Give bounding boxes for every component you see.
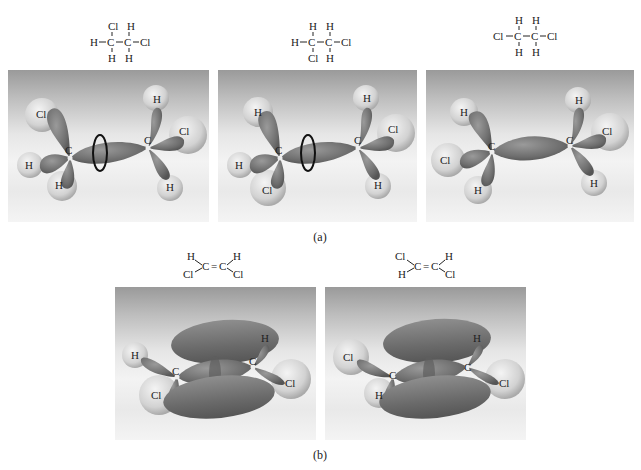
- atom-label: H: [326, 20, 334, 32]
- atom-label: H: [153, 93, 161, 105]
- carbon-label: C: [488, 140, 495, 152]
- bond-label: =: [211, 260, 217, 272]
- atom-label: H: [474, 184, 482, 196]
- atom-label: H: [363, 92, 371, 104]
- model-panel-a2: C C H H Cl H Cl H: [218, 70, 417, 222]
- atom-label: H: [90, 36, 98, 48]
- carbon-label: C: [566, 134, 573, 146]
- carbon-label: C: [354, 134, 361, 146]
- atom-label: C: [325, 36, 332, 48]
- atom-label: C: [308, 36, 315, 48]
- carbon-label: C: [275, 144, 282, 156]
- atom-label: C: [514, 30, 521, 42]
- atom-label: H: [309, 20, 317, 32]
- atom-label: H: [254, 106, 262, 118]
- atom-label: Cl: [547, 30, 557, 42]
- atom-label: Cl: [262, 184, 272, 196]
- formula-b2: Cl H C = C H Cl: [395, 250, 465, 282]
- model-panel-a3: C C H Cl H H Cl H: [426, 70, 634, 222]
- caption-a: (a): [300, 230, 340, 245]
- model-panel-b2: C C Cl H H Cl: [325, 287, 526, 440]
- atom-label: C: [107, 36, 114, 48]
- atom-label: H: [575, 94, 583, 106]
- model-panel-b1: C C H Cl H Cl: [115, 287, 316, 440]
- atom-label: H: [187, 250, 195, 262]
- atom-label: Cl: [151, 389, 161, 401]
- atom-label: C: [531, 30, 538, 42]
- atom-label: Cl: [36, 108, 46, 120]
- atom-label: Cl: [493, 30, 503, 42]
- carbon-label: C: [65, 144, 72, 156]
- atom-label: Cl: [233, 268, 243, 280]
- carbon-label: C: [144, 134, 151, 146]
- formula-b1: H Cl C = C H Cl: [183, 250, 253, 282]
- atom-label: H: [590, 177, 598, 189]
- atom-label: Cl: [285, 377, 295, 389]
- formula-a1: Cl H H C C Cl H H: [88, 20, 148, 64]
- atom-label: H: [291, 36, 299, 48]
- atom-label: Cl: [440, 154, 450, 166]
- atom-label: H: [127, 20, 135, 32]
- atom-label: Cl: [602, 125, 612, 137]
- atom-label: H: [261, 332, 269, 344]
- atom-label: H: [55, 179, 63, 191]
- atom-label: Cl: [445, 268, 455, 280]
- formula-a3: H H Cl C C Cl H H: [495, 14, 555, 58]
- atom-label: H: [515, 14, 523, 26]
- atom-label: H: [532, 46, 540, 58]
- atom-label: H: [233, 250, 241, 262]
- atom-label: Cl: [179, 125, 189, 137]
- atom-label: H: [398, 268, 406, 280]
- atom-label: H: [460, 106, 468, 118]
- formula-a2: H H H C C Cl Cl H: [289, 20, 349, 64]
- atom-label: Cl: [343, 351, 353, 363]
- carbon-label: C: [172, 365, 179, 377]
- atom-label: Cl: [308, 52, 318, 64]
- atom-label: Cl: [388, 123, 398, 135]
- atom-label: H: [125, 52, 133, 64]
- atom-label: H: [25, 159, 33, 171]
- atom-label: C: [202, 260, 209, 272]
- atom-label: H: [131, 349, 139, 361]
- atom-label: H: [473, 332, 481, 344]
- atom-label: H: [326, 52, 334, 64]
- atom-label: Cl: [183, 268, 193, 280]
- atom-label: C: [431, 260, 438, 272]
- atom-label: H: [166, 181, 174, 193]
- atom-label: H: [515, 46, 523, 58]
- atom-label: H: [235, 159, 243, 171]
- model-panel-a1: C C Cl H H H Cl H: [8, 70, 209, 222]
- atom-label: H: [374, 179, 382, 191]
- bond-label: =: [423, 260, 429, 272]
- atom-label: C: [414, 260, 421, 272]
- atom-label: H: [375, 389, 383, 401]
- atom-label: H: [532, 14, 540, 26]
- atom-label: C: [124, 36, 131, 48]
- carbon-label: C: [464, 361, 471, 373]
- carbon-label: C: [389, 369, 396, 381]
- atom-label: H: [445, 250, 453, 262]
- caption-b: (b): [300, 448, 340, 463]
- atom-label: Cl: [140, 36, 150, 48]
- carbon-label: C: [249, 355, 256, 367]
- atom-label: Cl: [395, 250, 405, 262]
- atom-label: Cl: [499, 377, 509, 389]
- atom-label: C: [219, 260, 226, 272]
- atom-label: Cl: [341, 36, 351, 48]
- atom-label: Cl: [108, 20, 118, 32]
- atom-label: H: [108, 52, 116, 64]
